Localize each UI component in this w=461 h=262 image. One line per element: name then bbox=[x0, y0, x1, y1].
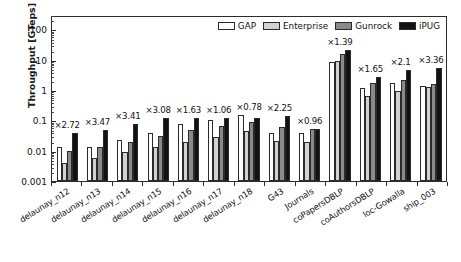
y-minor-tick bbox=[51, 92, 54, 93]
y-minor-tick bbox=[51, 43, 54, 44]
bar-group: ×2.72 bbox=[52, 17, 82, 181]
y-minor-tick bbox=[51, 164, 54, 165]
y-minor-tick bbox=[51, 65, 54, 66]
speedup-annotation: ×2.25 bbox=[267, 103, 292, 113]
bar-ipu bbox=[224, 118, 229, 181]
bar-ipu bbox=[133, 124, 138, 181]
bar-ipu bbox=[72, 133, 77, 181]
x-label-cell: delaunay_n18 bbox=[234, 184, 264, 262]
bar-group: ×3.36 bbox=[416, 17, 446, 181]
chart-legend: GAPEnterpriseGunrockiPUG bbox=[197, 18, 442, 33]
speedup-annotation: ×1.63 bbox=[176, 105, 201, 115]
y-minor-tick bbox=[51, 73, 54, 74]
y-minor-tick bbox=[51, 112, 54, 113]
bar-group: ×1.39 bbox=[325, 17, 355, 181]
y-minor-tick bbox=[51, 16, 54, 17]
y-minor-tick bbox=[51, 77, 54, 78]
legend-item: Enterprise bbox=[263, 21, 328, 31]
y-minor-tick bbox=[51, 128, 54, 129]
y-minor-tick bbox=[51, 62, 54, 63]
y-minor-tick bbox=[51, 98, 54, 99]
y-minor-tick bbox=[51, 155, 54, 156]
bar-group: ×3.08 bbox=[143, 17, 173, 181]
bar-group: ×2.25 bbox=[264, 17, 294, 181]
y-minor-tick bbox=[51, 67, 54, 68]
legend-swatch bbox=[218, 22, 235, 30]
legend-label: iPUG bbox=[419, 21, 440, 31]
legend-swatch bbox=[263, 22, 280, 30]
x-tick-mark bbox=[447, 182, 448, 186]
legend-item: Gunrock bbox=[335, 21, 392, 31]
legend-label: Gunrock bbox=[355, 21, 392, 31]
y-minor-tick bbox=[51, 70, 54, 71]
y-minor-tick bbox=[51, 37, 54, 38]
chart-figure: Throughput [GTeps] ×2.72×3.47×3.41×3.08×… bbox=[0, 0, 461, 262]
legend-item: GAP bbox=[218, 21, 256, 31]
speedup-annotation: ×1.65 bbox=[358, 64, 383, 74]
y-minor-tick bbox=[51, 35, 54, 36]
y-minor-tick bbox=[51, 161, 54, 162]
x-tick-label: G43 bbox=[265, 186, 284, 203]
bar-ipu bbox=[315, 129, 320, 181]
bar-group: ×3.47 bbox=[82, 17, 112, 181]
bar-ipu bbox=[406, 70, 411, 181]
speedup-annotation: ×0.78 bbox=[236, 102, 261, 112]
y-tick-label: 100 bbox=[9, 26, 47, 35]
speedup-annotation: ×2.1 bbox=[391, 57, 411, 67]
y-minor-tick bbox=[51, 107, 54, 108]
speedup-annotation: ×3.41 bbox=[115, 111, 140, 121]
speedup-annotation: ×3.36 bbox=[418, 55, 443, 65]
y-tick-label: 10 bbox=[9, 56, 47, 65]
speedup-annotation: ×1.39 bbox=[327, 37, 352, 47]
y-minor-tick bbox=[51, 33, 54, 34]
y-minor-tick bbox=[51, 46, 54, 47]
y-minor-tick bbox=[51, 173, 54, 174]
y-minor-tick bbox=[51, 64, 54, 65]
bar-ipu bbox=[285, 116, 290, 181]
y-tick-label: 1 bbox=[9, 87, 47, 96]
bar-groups: ×2.72×3.47×3.41×3.08×1.63×1.06×0.78×2.25… bbox=[52, 17, 446, 181]
bar-group: ×3.41 bbox=[113, 17, 143, 181]
x-label-cell: loc-Gowalla bbox=[386, 184, 416, 262]
legend-item: iPUG bbox=[399, 21, 440, 31]
y-minor-tick bbox=[51, 21, 54, 22]
legend-label: Enterprise bbox=[283, 21, 328, 31]
legend-swatch bbox=[335, 22, 352, 30]
y-minor-tick bbox=[51, 168, 54, 169]
x-axis-labels: delaunay_n12delaunay_n13delaunay_n14dela… bbox=[51, 184, 447, 262]
y-minor-tick bbox=[51, 131, 54, 132]
bar-group: ×1.06 bbox=[204, 17, 234, 181]
y-minor-tick bbox=[51, 100, 54, 101]
y-tick-label: 0.1 bbox=[9, 117, 47, 126]
y-minor-tick bbox=[51, 96, 54, 97]
bar-group: ×0.78 bbox=[234, 17, 264, 181]
bar-ipu bbox=[254, 118, 259, 181]
bar-group: ×2.1 bbox=[385, 17, 415, 181]
speedup-annotation: ×3.47 bbox=[85, 117, 110, 127]
bar-ipu bbox=[345, 50, 350, 181]
y-tick-label: 0.01 bbox=[9, 147, 47, 156]
y-minor-tick bbox=[51, 40, 54, 41]
y-minor-tick bbox=[51, 143, 54, 144]
bar-ipu bbox=[376, 77, 381, 181]
bar-ipu bbox=[436, 68, 441, 181]
speedup-annotation: ×1.06 bbox=[206, 105, 231, 115]
y-minor-tick bbox=[51, 82, 54, 83]
x-label-cell: ship_003 bbox=[417, 184, 447, 262]
y-minor-tick bbox=[51, 153, 54, 154]
y-tick-label: 0.001 bbox=[9, 178, 47, 187]
y-minor-tick bbox=[51, 158, 54, 159]
legend-label: GAP bbox=[238, 21, 256, 31]
bar-ipu bbox=[103, 130, 108, 181]
y-minor-tick bbox=[51, 52, 54, 53]
y-minor-tick bbox=[51, 126, 54, 127]
y-minor-tick bbox=[51, 137, 54, 138]
speedup-annotation: ×3.08 bbox=[145, 105, 170, 115]
y-minor-tick bbox=[51, 94, 54, 95]
y-minor-tick bbox=[51, 124, 54, 125]
bar-ipu bbox=[194, 118, 199, 181]
legend-swatch bbox=[399, 22, 416, 30]
bar-ipu bbox=[163, 118, 168, 181]
y-minor-tick bbox=[51, 156, 54, 157]
x-label-cell: coAuthorsDBLP bbox=[356, 184, 386, 262]
